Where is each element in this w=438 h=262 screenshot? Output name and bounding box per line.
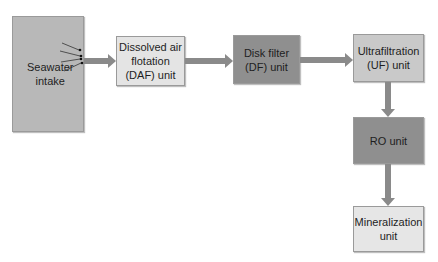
node-label-line: RO unit xyxy=(370,134,407,148)
ultrafiltration-node: Ultrafiltration (UF) unit xyxy=(353,34,424,82)
node-label-line: Disk filter xyxy=(244,46,289,60)
node-label-line: Ultrafiltration xyxy=(358,44,420,58)
flow-arrow-daf-to-df xyxy=(185,58,226,64)
node-label-line: Mineralization xyxy=(355,215,423,229)
node-label-line: flotation xyxy=(119,54,182,68)
flow-arrow-intake-to-daf xyxy=(84,58,109,64)
ro-unit-node: RO unit xyxy=(353,117,424,164)
node-label-line: intake xyxy=(27,74,73,88)
node-label-line: unit xyxy=(355,229,423,243)
flow-arrow-uf-to-ro xyxy=(385,82,391,110)
water-inflow-icon xyxy=(60,40,86,74)
flow-arrow-df-to-uf xyxy=(300,57,346,63)
flow-arrow-ro-to-mineralization xyxy=(385,164,391,199)
disk-filter-node: Disk filter (DF) unit xyxy=(233,35,300,84)
node-label-line: (DF) unit xyxy=(244,60,289,74)
node-label-line: (DAF) unit xyxy=(119,68,182,82)
node-label-line: Dissolved air xyxy=(119,40,182,54)
daf-unit-node: Dissolved air flotation (DAF) unit xyxy=(116,36,185,86)
seawater-intake-node: Seawater intake xyxy=(12,16,84,132)
node-label-line: (UF) unit xyxy=(358,58,420,72)
mineralization-node: Mineralization unit xyxy=(353,206,424,252)
